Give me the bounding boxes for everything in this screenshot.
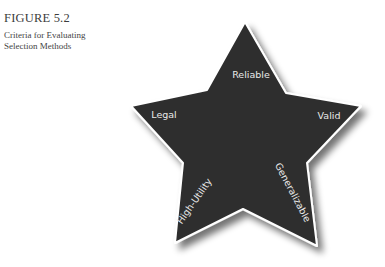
label-reliable: Reliable [232, 69, 270, 80]
star-shape [131, 22, 361, 246]
label-legal: Legal [151, 109, 176, 120]
criteria-star-diagram: Reliable Legal Valid High-Utility Genera… [0, 0, 385, 267]
label-valid: Valid [318, 110, 341, 121]
